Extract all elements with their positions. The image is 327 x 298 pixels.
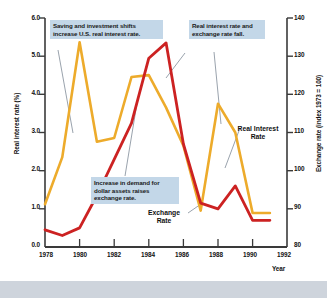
annotation-saving-investment: Saving and investment shifts increase U.… bbox=[50, 20, 163, 39]
page-bottom-strip bbox=[0, 281, 327, 298]
label-exchange-rate-line2: Rate bbox=[157, 217, 172, 224]
annotation-dollar-demand: Increase in demand for dollar assets rai… bbox=[91, 177, 179, 204]
label-real-interest-rate-line2: Rate bbox=[251, 133, 266, 140]
label-exchange-rate: Exchange Rate bbox=[136, 209, 192, 225]
annotation-rates-fall: Real interest rate and exchange rate fal… bbox=[189, 20, 265, 39]
label-exchange-rate-line1: Exchange bbox=[148, 209, 180, 216]
label-real-interest-rate: Real Interest Rate bbox=[222, 125, 294, 141]
leader-line-saving-investment bbox=[58, 50, 73, 133]
chart-figure: Real interest rate (%) Exchange rate (in… bbox=[0, 0, 327, 281]
label-real-interest-rate-line1: Real Interest bbox=[238, 125, 279, 132]
